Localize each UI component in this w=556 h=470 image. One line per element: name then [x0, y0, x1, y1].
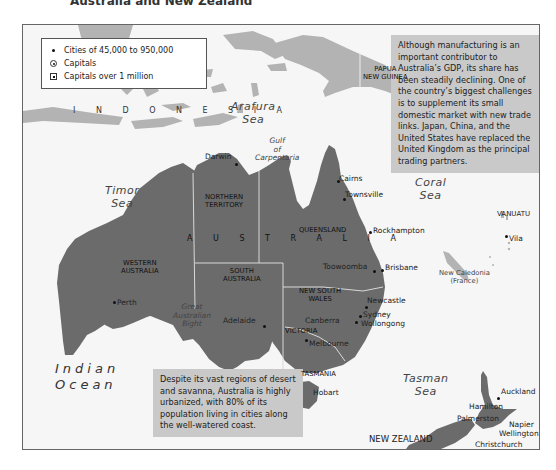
map-title-text: Australia and New Zealand	[70, 0, 252, 8]
label-northern-territory: NORTHERN TERRITORY	[205, 193, 243, 210]
city-dot-icon	[355, 321, 358, 324]
city-dot-icon	[50, 47, 57, 54]
city-palmerston: Palmerston	[457, 415, 499, 423]
city-dot-icon	[235, 163, 238, 166]
city-perth: Perth	[117, 299, 137, 307]
city-dot-icon	[359, 315, 362, 318]
city-wellington: Wellington	[499, 430, 539, 438]
large-capital-icon	[50, 73, 57, 80]
map-title: Australia and New Zealand	[70, 0, 252, 8]
legend-item-large-capitals: Capitals over 1 million	[50, 70, 198, 83]
city-adelaide: Adelaide	[223, 317, 256, 325]
vanuatu-landmass	[489, 211, 510, 266]
legend-item-capitals: Capitals	[50, 57, 198, 70]
city-toowoomba: Toowoomba	[323, 263, 367, 271]
capital-icon	[50, 60, 57, 67]
label-new-caledonia: New Caledonia (France)	[439, 269, 490, 286]
city-rockhampton: Rockhampton	[373, 227, 425, 235]
city-napier: Napier	[509, 421, 534, 429]
city-melbourne: Melbourne	[309, 340, 349, 348]
city-dot-icon	[373, 270, 376, 273]
city-dot-icon	[365, 306, 368, 309]
city-hobart: Hobart	[313, 389, 339, 397]
city-dot-icon	[381, 269, 384, 272]
label-new-zealand: NEW ZEALAND	[369, 435, 433, 444]
city-darwin: Darwin	[205, 153, 231, 161]
map-legend: Cities of 45,000 to 950,000 Capitals Cap…	[41, 38, 207, 89]
map-frame: Cities of 45,000 to 950,000 Capitals Cap…	[22, 24, 540, 450]
note-manufacturing: Although manufacturing is an important c…	[391, 35, 540, 173]
label-south-australia: SOUTH AUSTRALIA	[223, 267, 261, 284]
city-auckland: Auckland	[501, 388, 536, 396]
city-dot-icon	[305, 339, 308, 342]
label-great-australian-bight: Great Australian Bight	[173, 303, 211, 329]
label-papua-new-guinea: PAPUA NEW GUINEA	[363, 65, 408, 82]
label-western-australia: WESTERN AUSTRALIA	[121, 259, 159, 276]
city-wollongong: Wollongong	[361, 320, 405, 328]
city-brisbane: Brisbane	[385, 264, 418, 272]
label-new-south-wales: NEW SOUTH WALES	[299, 287, 341, 304]
label-indonesia: I N D O N E S I A	[73, 107, 291, 115]
city-dot-icon	[505, 235, 508, 238]
city-vila: Vila	[509, 235, 523, 243]
city-newcastle: Newcastle	[367, 297, 406, 305]
city-dot-icon	[113, 301, 116, 304]
city-dot-icon	[497, 397, 500, 400]
label-queensland: QUEENSLAND	[299, 226, 346, 234]
label-gulf-of-carpentaria: Gulf of Carpentaria	[255, 137, 299, 163]
label-vanuatu: VANUATU	[497, 211, 530, 218]
city-sydney: Sydney	[363, 311, 391, 319]
label-victoria: VICTORIA	[285, 327, 317, 335]
label-indian-ocean: Indian Ocean	[55, 361, 119, 392]
city-christchurch: Christchurch	[475, 441, 522, 449]
label-tasman-sea: Tasman Sea	[403, 373, 448, 398]
city-townsville: Townsville	[345, 191, 383, 199]
city-dot-icon	[369, 231, 372, 234]
label-timor-sea: Timor Sea	[105, 185, 139, 210]
label-australia: A U S T R A L I A	[187, 235, 405, 243]
label-tasmania: TASMANIA	[301, 370, 336, 378]
city-hamilton: Hamilton	[469, 403, 503, 411]
note-urbanization: Despite its vast regions of desert and s…	[153, 369, 303, 437]
city-canberra: Canberra	[305, 317, 340, 325]
city-cairns: Cairns	[339, 175, 363, 183]
label-coral-sea: Coral Sea	[415, 177, 446, 202]
legend-item-cities: Cities of 45,000 to 950,000	[50, 44, 198, 57]
city-dot-icon	[263, 325, 266, 328]
